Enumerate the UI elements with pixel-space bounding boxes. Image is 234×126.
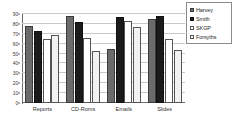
bar-slides-skgp[interactable] (165, 39, 173, 103)
bar-emails-skgp[interactable] (124, 21, 132, 103)
y-axis-tick-mark (18, 93, 20, 94)
chart-legend: HarveySmithSKGPForsyths (186, 2, 232, 44)
y-axis-tick-mark (18, 73, 20, 74)
bar-cd-roms-forsyths[interactable] (92, 51, 100, 103)
legend-item-harvey[interactable]: Harvey (189, 5, 229, 14)
y-axis-tick-mark (18, 83, 20, 84)
y-axis-tick-mark (18, 103, 20, 104)
legend-item-label: SKGP (196, 25, 211, 31)
x-axis-tick-label: CD-Roms (71, 106, 95, 113)
bar-reports-harvey[interactable] (25, 26, 33, 103)
bar-emails-smith[interactable] (116, 17, 124, 103)
bar-emails-forsyths[interactable] (133, 27, 141, 103)
y-axis-tick-mark (18, 33, 20, 34)
x-axis-tick-label: Slides (157, 106, 172, 113)
bar-slides-smith[interactable] (156, 16, 164, 103)
bar-reports-smith[interactable] (34, 31, 42, 103)
y-axis-tick-mark (18, 23, 20, 24)
legend-item-skgp[interactable]: SKGP (189, 23, 229, 32)
legend-swatch-icon (190, 26, 194, 30)
plot-area (22, 14, 185, 103)
legend-swatch-icon (190, 35, 194, 39)
legend-swatch-icon (190, 17, 194, 21)
bar-reports-skgp[interactable] (43, 39, 51, 103)
legend-item-smith[interactable]: Smith (189, 14, 229, 23)
legend-item-label: Harvey (196, 7, 213, 13)
x-axis-tick-label: Emails (116, 106, 133, 113)
bar-group (144, 14, 185, 103)
bar-chart: 0102030405060708090 ReportsCD-RomsEmails… (0, 0, 234, 126)
legend-swatch-icon (190, 8, 194, 12)
legend-item-label: Smith (196, 16, 210, 22)
bars-layer (22, 14, 185, 103)
y-axis-tick-mark (18, 53, 20, 54)
bar-cd-roms-skgp[interactable] (83, 38, 91, 103)
y-axis-tick-mark (18, 14, 20, 15)
y-axis-tick-mark (18, 43, 20, 44)
x-axis-tick-labels: ReportsCD-RomsEmailsSlides (22, 106, 185, 120)
legend-item-label: Forsyths (196, 34, 216, 40)
y-axis-tick-labels: 0102030405060708090 (0, 14, 20, 103)
bar-slides-forsyths[interactable] (174, 50, 182, 103)
x-axis-tick-label: Reports (33, 106, 52, 113)
bar-emails-harvey[interactable] (107, 49, 115, 103)
legend-item-forsyths[interactable]: Forsyths (189, 32, 229, 41)
bar-group (63, 14, 104, 103)
bar-group (22, 14, 63, 103)
y-axis-tick-mark (18, 63, 20, 64)
bar-reports-forsyths[interactable] (51, 35, 59, 103)
bar-slides-harvey[interactable] (148, 19, 156, 103)
bar-cd-roms-smith[interactable] (75, 22, 83, 103)
bar-group (104, 14, 145, 103)
bar-cd-roms-harvey[interactable] (66, 16, 74, 103)
